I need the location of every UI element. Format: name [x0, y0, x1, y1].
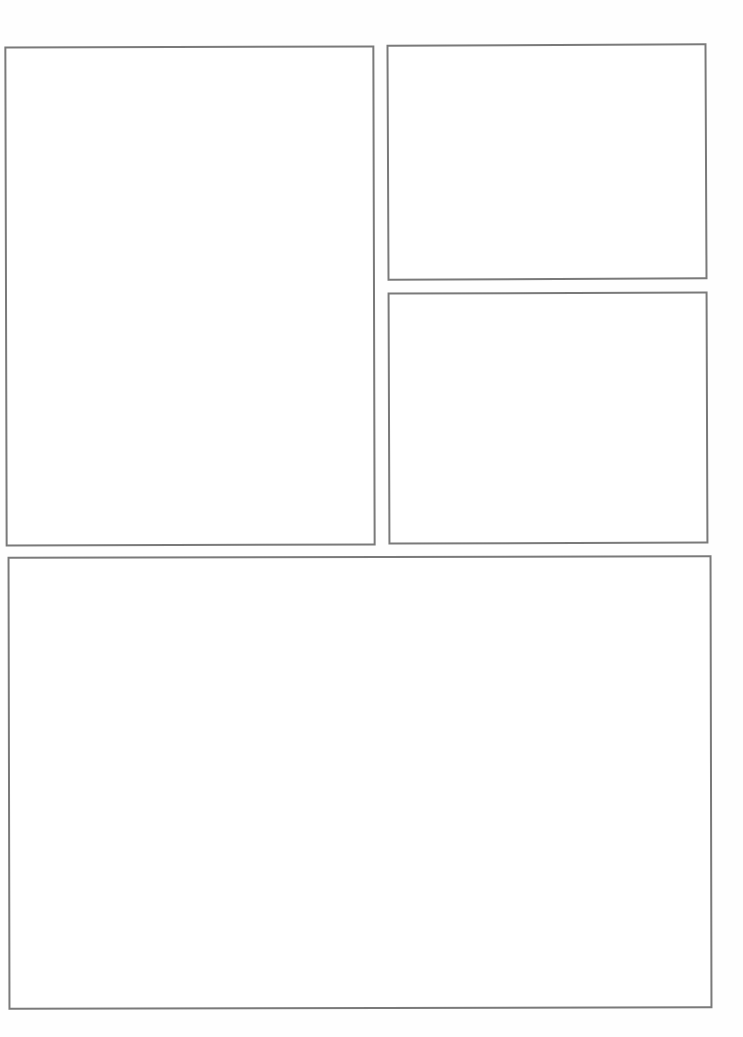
panel-content: [6, 48, 7, 49]
panel-content: [388, 47, 389, 48]
panel-top-right: [386, 43, 707, 280]
comic-page-template: [0, 0, 743, 1037]
panel-content: [10, 559, 11, 560]
panel-middle-right: [388, 291, 709, 544]
panel-bottom: [8, 555, 713, 1009]
panel-content: [390, 295, 391, 296]
panel-top-left: [4, 46, 375, 547]
